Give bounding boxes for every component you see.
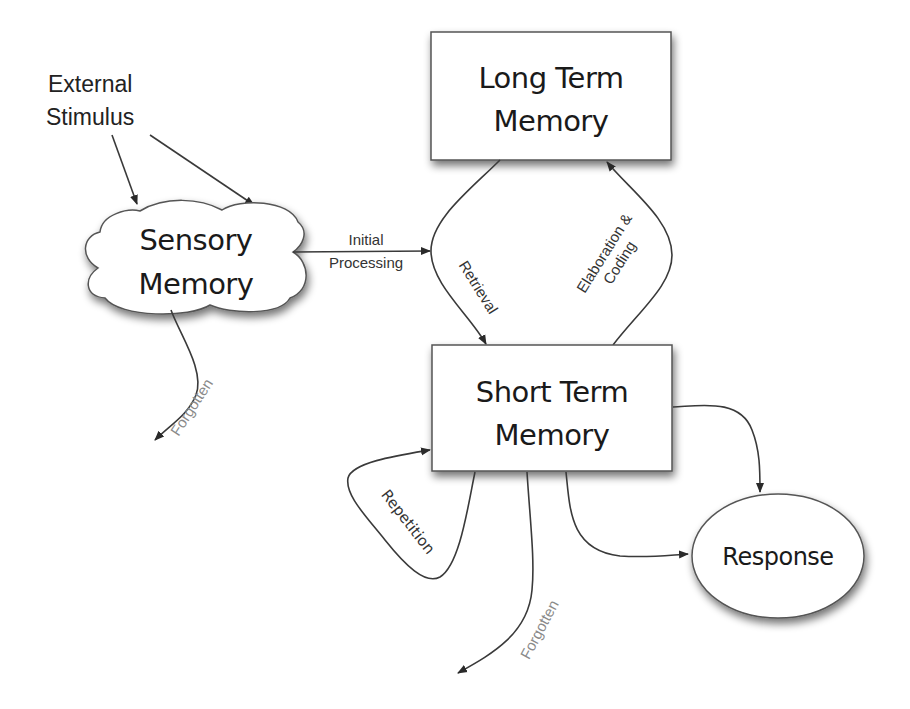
external-stimulus-line2: Stimulus (46, 104, 134, 130)
sensory-memory-node[interactable]: Sensory Memory (85, 200, 306, 314)
retrieval-arrow (431, 160, 500, 344)
stimulus-to-sensory-arrow-1 (112, 135, 137, 204)
response-node[interactable]: Response (692, 494, 864, 618)
external-stimulus-label: External Stimulus (46, 71, 134, 130)
retrieval-label: Retrieval (456, 257, 502, 316)
response-label: Response (722, 543, 833, 571)
sensory-memory-line1: Sensory (139, 223, 252, 257)
repetition-label: Repetition (377, 486, 438, 557)
long-term-memory-line2: Memory (494, 104, 609, 138)
initial-processing-line1: Initial (348, 231, 383, 248)
sensory-forgotten-label: Forgotten (167, 375, 216, 438)
short-term-memory-line1: Short Term (476, 375, 628, 409)
initial-processing-arrow (293, 251, 430, 252)
stm-to-response-arrow-upper (673, 405, 760, 492)
stm-forgotten-label: Forgotten (517, 597, 562, 662)
stm-to-response-arrow-lower (566, 472, 688, 557)
elaboration-coding-label: Elaboration & Coding (573, 210, 650, 305)
long-term-memory-box (431, 32, 671, 160)
short-term-memory-line2: Memory (495, 418, 610, 452)
short-term-memory-node[interactable]: Short Term Memory (432, 345, 672, 471)
stimulus-to-sensory-arrow-2 (150, 135, 254, 205)
initial-processing-line2: Processing (329, 254, 403, 271)
memory-diagram: External Stimulus Sensory Memory Initial… (0, 0, 910, 709)
sensory-memory-line2: Memory (139, 267, 254, 301)
long-term-memory-node[interactable]: Long Term Memory (431, 32, 671, 160)
long-term-memory-line1: Long Term (478, 61, 623, 95)
external-stimulus-line1: External (48, 71, 132, 97)
